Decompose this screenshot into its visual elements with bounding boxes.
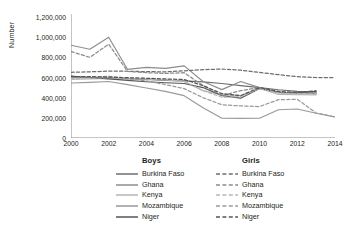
legend-line-swatch-icon bbox=[216, 212, 238, 222]
legend-column-boys: Boys Burkina FasoGhanaKenyaMozambiqueNig… bbox=[116, 156, 184, 222]
legend-item[interactable]: Kenya bbox=[216, 190, 284, 201]
legend-item[interactable]: Ghana bbox=[116, 180, 184, 191]
legend-item-label: Mozambique bbox=[242, 202, 283, 210]
y-axis-tick-label: 200,000 bbox=[41, 114, 66, 121]
legend-item-label: Ghana bbox=[242, 181, 264, 189]
legend-item[interactable]: Mozambique bbox=[216, 201, 284, 212]
legend-line-swatch-icon bbox=[216, 169, 238, 179]
legend-item[interactable]: Ghana bbox=[216, 180, 284, 191]
chart-figure: Number 0200,000400,000600,000800,0001,00… bbox=[0, 0, 351, 240]
legend-line-swatch-icon bbox=[116, 169, 138, 179]
x-axis-tick-label: 2006 bbox=[177, 140, 192, 148]
legend-line-swatch-icon bbox=[216, 190, 238, 200]
x-axis-tick-label: 2010 bbox=[252, 140, 267, 148]
legend-item[interactable]: Burkina Faso bbox=[216, 169, 284, 180]
legend-items-boys: Burkina FasoGhanaKenyaMozambiqueNiger bbox=[116, 169, 184, 222]
x-axis-tick-label: 2008 bbox=[214, 140, 229, 148]
y-axis-tick-label: 1,000,000 bbox=[36, 34, 66, 41]
legend-item-label: Niger bbox=[242, 213, 259, 221]
chart-plot-region: Number 0200,000400,000600,000800,0001,00… bbox=[0, 0, 351, 155]
legend-item[interactable]: Burkina Faso bbox=[116, 169, 184, 180]
series-line-boys-burkina-faso bbox=[71, 78, 316, 93]
legend-line-swatch-icon bbox=[216, 201, 238, 211]
legend-item[interactable]: Kenya bbox=[116, 190, 184, 201]
legend-item-label: Burkina Faso bbox=[142, 170, 184, 178]
legend-column-girls: Girls Burkina FasoGhanaKenyaMozambiqueNi… bbox=[216, 156, 284, 222]
chart-legend: Boys Burkina FasoGhanaKenyaMozambiqueNig… bbox=[0, 156, 351, 240]
legend-line-swatch-icon bbox=[116, 201, 138, 211]
legend-items-girls: Burkina FasoGhanaKenyaMozambiqueNiger bbox=[216, 169, 284, 222]
legend-line-swatch-icon bbox=[116, 212, 138, 222]
x-axis-tick-label: 2004 bbox=[139, 140, 154, 148]
legend-item-label: Mozambique bbox=[142, 202, 183, 210]
y-axis-tick-label: 400,000 bbox=[41, 94, 66, 101]
line-chart-canvas bbox=[71, 14, 335, 138]
legend-item-label: Kenya bbox=[242, 191, 262, 199]
x-axis-tick-labels: 20002002200420062008201020122014 bbox=[60, 140, 350, 154]
legend-item-label: Ghana bbox=[142, 181, 164, 189]
legend-item-label: Niger bbox=[142, 213, 159, 221]
x-axis-tick-label: 2014 bbox=[327, 140, 342, 148]
legend-line-swatch-icon bbox=[216, 180, 238, 190]
legend-header-boys: Boys bbox=[142, 156, 184, 165]
legend-header-girls: Girls bbox=[242, 156, 284, 165]
series-line-girls-ghana bbox=[71, 44, 316, 95]
y-axis-tick-label: 1,200,000 bbox=[36, 14, 66, 21]
y-axis-tick-label: 600,000 bbox=[41, 74, 66, 81]
legend-item[interactable]: Niger bbox=[116, 211, 184, 222]
x-axis-tick-label: 2002 bbox=[101, 140, 116, 148]
x-axis-tick-label: 2012 bbox=[290, 140, 305, 148]
legend-item[interactable]: Niger bbox=[216, 211, 284, 222]
legend-item-label: Kenya bbox=[142, 191, 162, 199]
chart-svg bbox=[71, 14, 335, 138]
legend-line-swatch-icon bbox=[116, 180, 138, 190]
y-axis-tick-labels: 0200,000400,000600,000800,0001,000,0001,… bbox=[14, 10, 66, 142]
legend-item[interactable]: Mozambique bbox=[116, 201, 184, 212]
y-axis-tick-label: 800,000 bbox=[41, 54, 66, 61]
legend-item-label: Burkina Faso bbox=[242, 170, 284, 178]
legend-line-swatch-icon bbox=[116, 190, 138, 200]
x-axis-tick-label: 2000 bbox=[63, 140, 78, 148]
